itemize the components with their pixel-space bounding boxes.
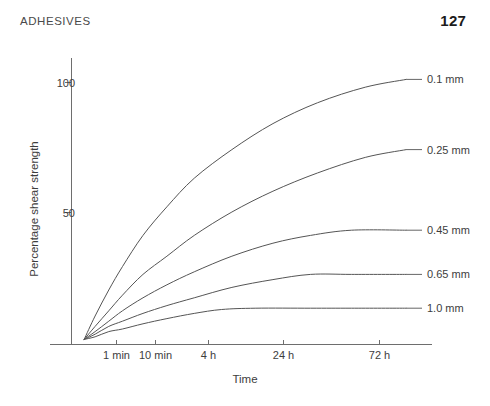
tick-marks-group	[65, 83, 380, 345]
y-axis-title: Percentage shear strength	[28, 99, 40, 319]
x-tick-label: 4 h	[201, 349, 216, 361]
y-tick-label: 50	[63, 207, 75, 219]
series-label-0-25-mm: 0.25 mm	[427, 144, 470, 156]
curve-0-1-mm	[84, 79, 406, 339]
curve-0-25-mm	[84, 150, 406, 340]
x-tick-label: 72 h	[369, 349, 390, 361]
series-label-0-1-mm: 0.1 mm	[427, 73, 464, 85]
x-tick-label: 10 min	[139, 349, 172, 361]
curve-1-0-mm	[84, 308, 406, 339]
curve-0-65-mm	[84, 274, 406, 339]
curves-group	[84, 79, 406, 339]
series-label-1-0-mm: 1.0 mm	[427, 302, 464, 314]
chart-figure: 50100 1 min10 min4 h24 h72 h 0.1 mm0.25 …	[0, 0, 490, 406]
series-label-0-65-mm: 0.65 mm	[427, 268, 470, 280]
x-tick-label: 1 min	[103, 349, 130, 361]
y-tick-label: 100	[57, 77, 75, 89]
x-axis-title: Time	[0, 373, 490, 385]
leader-lines-group	[406, 79, 422, 308]
x-tick-label: 24 h	[273, 349, 294, 361]
series-label-0-45-mm: 0.45 mm	[427, 224, 470, 236]
page: ADHESIVES 127 50100 1 min10 min4 h24 h72…	[0, 0, 490, 406]
axes-group	[50, 58, 432, 345]
chart-canvas	[0, 0, 490, 406]
